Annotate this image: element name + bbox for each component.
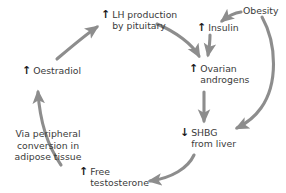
up-arrow-icon: ↑ [189, 63, 198, 74]
down-arrow-icon: ↓ [180, 127, 189, 138]
up-arrow-icon: ↑ [197, 22, 206, 33]
node-ovarian-androgens-label: Ovarian androgens [200, 63, 249, 86]
flow-diagram: ↑ LH production by pituitary Obesity ↑ I… [0, 0, 286, 193]
node-shbg-label: SHBG from liver [191, 127, 236, 150]
edge-obesity-to-insulin [222, 12, 241, 21]
node-lh-production-label: LH production by pituitary [112, 9, 177, 32]
node-free-testosterone-label: Free testosterone [90, 166, 149, 189]
node-obesity-label: Obesity [243, 5, 279, 16]
edge-shbg-to-free-testosterone [150, 155, 194, 181]
annotation-via-peripheral-conversion: Via peripheral conversion in adipose tis… [6, 128, 90, 163]
up-arrow-icon: ↑ [101, 9, 110, 20]
node-lh-production: ↑ LH production by pituitary [101, 9, 177, 32]
edge-insulin-to-ovarian [208, 35, 210, 55]
node-ovarian-androgens: ↑ Ovarian androgens [189, 63, 249, 86]
node-oestradiol-label: Oestradiol [33, 65, 81, 76]
edge-oestradiol-to-lh [57, 27, 97, 59]
node-insulin-label: Insulin [208, 22, 238, 33]
node-oestradiol: ↑ Oestradiol [22, 65, 81, 76]
node-insulin: ↑ Insulin [197, 22, 239, 33]
node-shbg: ↓ SHBG from liver [180, 127, 236, 150]
node-free-testosterone: ↑ Free testosterone [79, 166, 149, 189]
up-arrow-icon: ↑ [22, 65, 31, 76]
node-obesity: Obesity [243, 5, 279, 16]
up-arrow-icon: ↑ [79, 166, 88, 177]
